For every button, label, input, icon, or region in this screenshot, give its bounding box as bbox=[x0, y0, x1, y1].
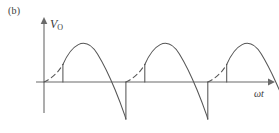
conducting-sinusoid-cycle-1 bbox=[63, 43, 126, 119]
blocked-segment-cycle-1 bbox=[44, 65, 63, 83]
x-axis-arrow-icon bbox=[268, 79, 275, 86]
y-axis-arrow-icon bbox=[41, 17, 48, 24]
blocked-segment-cycle-2 bbox=[126, 65, 145, 83]
waveform-plot bbox=[0, 0, 279, 133]
conducting-sinusoid-cycle-3 bbox=[227, 43, 279, 97]
figure-container: (b) VO ωt bbox=[0, 0, 279, 133]
blocked-segment-cycle-3 bbox=[208, 65, 227, 83]
waveform-group bbox=[44, 43, 279, 119]
conducting-sinusoid-cycle-2 bbox=[145, 43, 208, 119]
axes-group bbox=[36, 17, 275, 113]
